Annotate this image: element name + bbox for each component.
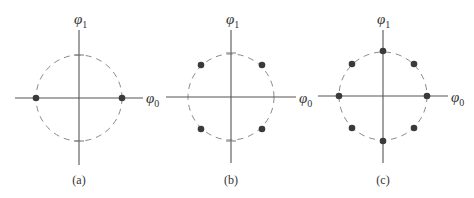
y-axis-label: φ1: [377, 11, 390, 30]
psk-constellation-figure: φ1 φ0 (a) φ1 φ0 (b) φ1 φ0 (c): [0, 0, 474, 198]
signal-point: [411, 125, 418, 132]
signal-point: [259, 126, 266, 133]
panel-a: φ1 φ0 (a): [15, 11, 159, 187]
signal-point: [380, 48, 387, 55]
panel-b: φ1 φ0 (b): [166, 11, 312, 187]
signal-point: [380, 138, 387, 145]
signal-point: [411, 61, 418, 68]
signal-point: [259, 62, 266, 69]
signal-point: [33, 95, 40, 102]
panel-caption: (b): [224, 173, 238, 187]
y-axis-label: φ1: [226, 11, 239, 30]
x-axis-label: φ0: [146, 90, 159, 109]
x-axis-label: φ0: [299, 90, 312, 109]
signal-point: [198, 62, 205, 69]
x-axis-label: φ0: [451, 89, 464, 108]
signal-point: [336, 93, 343, 100]
panel-caption: (c): [376, 173, 389, 187]
signal-point: [349, 61, 356, 68]
panel-c: φ1 φ0 (c): [318, 11, 464, 187]
signal-point: [198, 126, 205, 133]
signal-point: [119, 95, 126, 102]
signal-point: [424, 93, 431, 100]
y-axis-label: φ1: [74, 11, 87, 30]
panel-caption: (a): [72, 173, 85, 187]
signal-point: [349, 125, 356, 132]
